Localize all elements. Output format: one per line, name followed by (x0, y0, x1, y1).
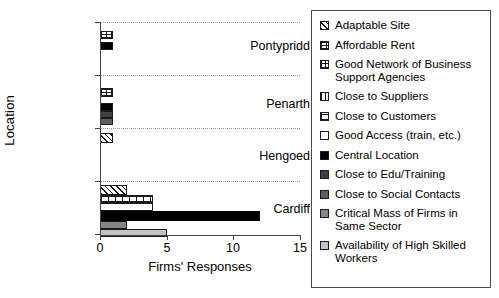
category-label-hengoed: Hengoed (216, 150, 310, 163)
legend-label: Close to Edu/Training (335, 168, 445, 181)
bar-cardiff-critical-mass (100, 221, 127, 229)
x-axis-line (100, 235, 300, 236)
x-axis-tick (100, 235, 101, 240)
legend-item-good-network-business-support: Good Network of Business Support Agencie… (320, 58, 484, 83)
legend-label: Good Network of Business Support Agencie… (335, 58, 484, 83)
category-label-pontypridd: Pontypridd (216, 40, 310, 53)
legend-label: Critical Mass of Firms in Same Sector (335, 207, 484, 232)
bar-cardiff-central-location (100, 211, 260, 221)
bar-penarth-affordable-rent (100, 88, 113, 97)
y-axis-title-text: Location (2, 95, 17, 146)
gridline (100, 181, 300, 182)
plot-area: Location Pontypridd Penarth Hengoed Card… (0, 0, 310, 298)
legend-label: Adaptable Site (335, 19, 410, 32)
legend-swatch-icon (320, 170, 329, 179)
legend-label: Availability of High Skilled Workers (335, 239, 484, 264)
legend-label: Close to Customers (335, 110, 436, 123)
x-axis-tick (233, 235, 234, 240)
x-tick-label-10: 10 (218, 241, 248, 255)
x-axis-tick (167, 235, 168, 240)
bar-cardiff-good-access (100, 203, 153, 211)
gridline (100, 128, 300, 129)
legend-item-availability-high-skilled-workers: Availability of High Skilled Workers (320, 239, 484, 264)
legend-swatch-icon (320, 209, 329, 218)
category-label-penarth: Penarth (216, 98, 310, 111)
y-axis-line (100, 22, 101, 235)
legend-label: Central Location (335, 149, 419, 162)
legend-item-close-to-suppliers: Close to Suppliers (320, 90, 484, 103)
legend-swatch-icon (320, 190, 329, 199)
legend-label: Close to Social Contacts (335, 188, 460, 201)
x-tick-label-0: 0 (85, 241, 115, 255)
legend-item-affordable-rent: Affordable Rent (320, 39, 484, 52)
x-axis-title: Firms' Responses (100, 259, 300, 274)
legend-swatch-icon (320, 92, 329, 101)
bar-pontypridd-affordable-rent (100, 31, 113, 39)
chart-root: Location Pontypridd Penarth Hengoed Card… (0, 0, 499, 298)
legend-item-adaptable-site: Adaptable Site (320, 19, 484, 32)
legend-item-close-to-edu-training: Close to Edu/Training (320, 168, 484, 181)
legend-swatch-icon (320, 60, 329, 69)
gridline (100, 22, 300, 23)
legend-swatch-icon (320, 112, 329, 121)
bar-cardiff-adaptable-site (100, 185, 127, 195)
bar-pontypridd-central-location (100, 42, 113, 50)
x-tick-label-5: 5 (152, 241, 182, 255)
legend-swatch-icon (320, 41, 329, 50)
bar-cardiff-close-to-customers (100, 195, 153, 203)
legend-swatch-icon (320, 131, 329, 140)
legend-item-close-to-customers: Close to Customers (320, 110, 484, 123)
legend-swatch-icon (320, 21, 329, 30)
bar-penarth-close-to-social-contacts (100, 118, 113, 125)
legend-label: Close to Suppliers (335, 90, 428, 103)
legend-swatch-icon (320, 241, 329, 250)
bar-penarth-close-to-edu-training (100, 111, 113, 118)
legend: Adaptable Site Affordable Rent Good Netw… (311, 10, 491, 288)
legend-item-central-location: Central Location (320, 149, 484, 162)
legend-label: Good Access (train, etc.) (335, 129, 461, 142)
legend-label: Affordable Rent (335, 39, 415, 52)
x-axis-tick (300, 235, 301, 240)
gridline (100, 75, 300, 76)
bar-penarth-central-location (100, 103, 113, 111)
y-axis-title: Location (2, 44, 17, 95)
bar-hengoed-adaptable-site (100, 133, 113, 143)
legend-item-good-access: Good Access (train, etc.) (320, 129, 484, 142)
legend-item-critical-mass-firms: Critical Mass of Firms in Same Sector (320, 207, 484, 232)
legend-item-close-to-social-contacts: Close to Social Contacts (320, 188, 484, 201)
legend-swatch-icon (320, 151, 329, 160)
